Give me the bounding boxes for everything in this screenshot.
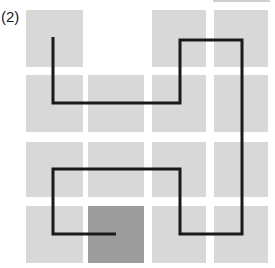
grid-cell-r1-c3 [214,75,268,132]
cropped-top-edge [213,0,270,2]
grid-cell-r1-c2 [152,75,206,132]
grid-cell-r3-c0 [26,206,83,263]
grid-cell-r2-c1 [88,142,144,197]
grid-cell-r0-c3 [214,10,268,67]
grid-cell-r2-c3 [214,142,268,197]
grid-cell-r0-c2 [152,10,206,67]
grid-path-diagram: (2) [0,0,275,268]
grid-cell-r1-c0 [26,75,83,132]
grid-cell-r1-c1 [88,75,144,132]
grid-cell-r0-c0 [26,10,83,67]
grid-cell-r3-c2 [152,206,206,263]
grid-cell-r2-c2 [152,142,206,197]
grid-cell-r3-c1-highlighted [88,206,144,263]
figure-label: (2) [1,8,19,26]
grid-cell-r2-c0 [26,142,83,197]
grid-cell-r3-c3 [214,206,268,263]
